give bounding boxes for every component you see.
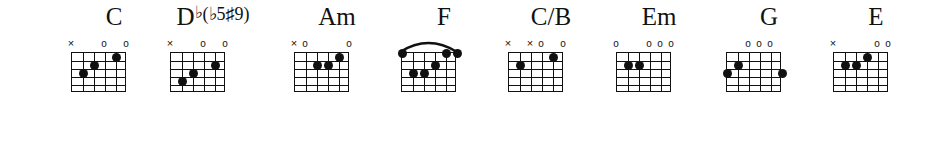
open-string-marker: o bbox=[98, 37, 110, 50]
chord-diagram: Am×oo bbox=[282, 0, 392, 110]
open-string-marker: o bbox=[535, 37, 547, 50]
string-markers: ×oo bbox=[59, 37, 169, 51]
muted-string-marker: × bbox=[164, 37, 176, 50]
chord-name: E bbox=[821, 2, 929, 32]
open-string-marker: o bbox=[764, 37, 776, 50]
finger-dot bbox=[852, 61, 861, 70]
chord-name: F bbox=[389, 2, 499, 32]
string-markers: ooo bbox=[714, 37, 824, 51]
fret-line bbox=[402, 61, 455, 62]
fret-line bbox=[295, 69, 348, 70]
fretboard-grid bbox=[726, 52, 781, 92]
chord-diagram: C/B××oo bbox=[496, 0, 606, 110]
chord-sheet: C×ooD♭(♭5♯9)×ooAm×ooFC/B××ooEmooooGoooE×… bbox=[0, 0, 929, 143]
open-string-marker: o bbox=[219, 37, 231, 50]
finger-dot bbox=[516, 61, 525, 70]
finger-dot bbox=[79, 69, 88, 78]
fret-line bbox=[509, 69, 562, 70]
chord-name: G bbox=[714, 2, 824, 32]
finger-dot bbox=[211, 61, 220, 70]
fret-line bbox=[295, 77, 348, 78]
chord-diagram: D♭(♭5♯9)×oo bbox=[158, 0, 268, 110]
chord-diagram: E×oo bbox=[821, 0, 929, 110]
finger-dot bbox=[335, 53, 344, 62]
muted-string-marker: × bbox=[502, 37, 514, 50]
fret-line bbox=[72, 85, 125, 86]
fretboard-grid bbox=[401, 52, 456, 92]
finger-dot bbox=[723, 69, 732, 78]
muted-string-marker: × bbox=[65, 37, 77, 50]
finger-dot bbox=[313, 61, 322, 70]
chord-diagram: C×oo bbox=[59, 0, 169, 110]
open-string-marker: o bbox=[299, 37, 311, 50]
fretboard-grid bbox=[616, 52, 671, 92]
fret-line bbox=[727, 77, 780, 78]
fret-line bbox=[295, 85, 348, 86]
string-markers: ××oo bbox=[496, 37, 606, 51]
string-markers: oooo bbox=[604, 37, 714, 51]
finger-dot bbox=[549, 53, 558, 62]
string-markers: ×oo bbox=[821, 37, 929, 51]
finger-dot bbox=[734, 61, 743, 70]
open-string-marker: o bbox=[610, 37, 622, 50]
fret-line bbox=[834, 77, 887, 78]
finger-dot bbox=[841, 61, 850, 70]
open-string-marker: o bbox=[557, 37, 569, 50]
open-string-marker: o bbox=[665, 37, 677, 50]
chord-name: C bbox=[59, 2, 169, 32]
finger-dot bbox=[90, 61, 99, 70]
finger-dot bbox=[420, 69, 429, 78]
fretboard-grid bbox=[294, 52, 349, 92]
fret-line bbox=[509, 85, 562, 86]
fretboard-grid bbox=[833, 52, 888, 92]
string-markers: ×oo bbox=[282, 37, 392, 51]
finger-dot bbox=[624, 61, 633, 70]
finger-dot bbox=[453, 49, 462, 58]
fretboard-grid bbox=[170, 52, 225, 92]
chord-name: C/B bbox=[496, 2, 606, 32]
finger-dot bbox=[178, 77, 187, 86]
open-string-marker: o bbox=[882, 37, 894, 50]
finger-dot bbox=[112, 53, 121, 62]
open-string-marker: o bbox=[120, 37, 132, 50]
chord-name: Am bbox=[282, 2, 392, 32]
fret-line bbox=[402, 85, 455, 86]
finger-dot bbox=[863, 53, 872, 62]
fret-line bbox=[834, 85, 887, 86]
fretboard-grid bbox=[71, 52, 126, 92]
fret-line bbox=[727, 85, 780, 86]
fret-line bbox=[617, 85, 670, 86]
finger-dot bbox=[442, 49, 451, 58]
chord-name: Em bbox=[604, 2, 714, 32]
fret-line bbox=[72, 77, 125, 78]
fret-line bbox=[402, 77, 455, 78]
chord-diagram: F bbox=[389, 0, 499, 110]
finger-dot bbox=[431, 61, 440, 70]
finger-dot bbox=[409, 69, 418, 78]
fret-line bbox=[727, 69, 780, 70]
finger-dot bbox=[398, 49, 407, 58]
muted-string-marker: × bbox=[827, 37, 839, 50]
open-string-marker: o bbox=[197, 37, 209, 50]
chord-name: D♭(♭5♯9) bbox=[158, 2, 268, 32]
chord-diagram: Emoooo bbox=[604, 0, 714, 110]
fretboard-grid bbox=[508, 52, 563, 92]
chord-diagram: Gooo bbox=[714, 0, 824, 110]
fret-line bbox=[509, 77, 562, 78]
finger-dot bbox=[189, 69, 198, 78]
open-string-marker: o bbox=[343, 37, 355, 50]
string-markers: ×oo bbox=[158, 37, 268, 51]
fret-line bbox=[171, 85, 224, 86]
fret-line bbox=[617, 69, 670, 70]
fret-line bbox=[834, 69, 887, 70]
finger-dot bbox=[324, 61, 333, 70]
fret-line bbox=[617, 77, 670, 78]
finger-dot bbox=[635, 61, 644, 70]
finger-dot bbox=[778, 69, 787, 78]
